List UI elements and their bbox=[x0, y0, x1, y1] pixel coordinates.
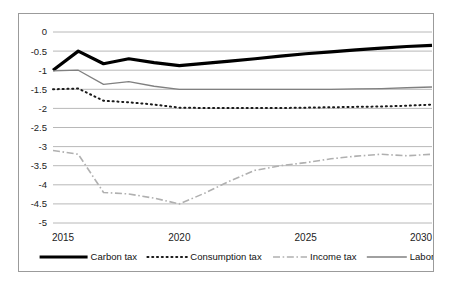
x-axis-tick-label: 2025 bbox=[295, 232, 318, 243]
y-axis-tick-label: -3 bbox=[39, 141, 47, 152]
x-axis-tick-label: 2015 bbox=[52, 232, 75, 243]
y-axis-tick-label: -2.5 bbox=[31, 122, 47, 133]
y-axis-tick-label: -1.5 bbox=[31, 84, 47, 95]
y-axis-tick-label: -3.5 bbox=[31, 160, 47, 171]
series-line-income-tax bbox=[53, 150, 432, 203]
x-axis-tick-label: 2030 bbox=[410, 232, 433, 243]
legend-label-consumption-tax[interactable]: Consumption tax bbox=[190, 251, 262, 262]
y-axis-tick-label: -4 bbox=[39, 179, 47, 190]
series-line-labor-tax bbox=[53, 70, 432, 89]
legend-label-carbon-tax[interactable]: Carbon tax bbox=[91, 251, 138, 262]
y-axis-tick-label: -4.5 bbox=[31, 198, 47, 209]
chart-plot-area: 0-0.5-1-1.5-2-2.5-3-3.5-4-4.5-5201520202… bbox=[19, 14, 433, 271]
series-line-consumption-tax bbox=[53, 89, 432, 108]
series-line-carbon-tax bbox=[53, 45, 432, 70]
y-axis-tick-label: -0.5 bbox=[31, 46, 47, 57]
y-axis-tick-label: -5 bbox=[39, 217, 47, 228]
y-axis-tick-label: -2 bbox=[39, 103, 47, 114]
x-axis-tick-label: 2020 bbox=[168, 232, 191, 243]
line-chart: 0-0.5-1-1.5-2-2.5-3-3.5-4-4.5-5201520202… bbox=[19, 14, 433, 271]
legend-label-labor-tax[interactable]: Labor tax bbox=[410, 251, 433, 262]
y-axis-tick-label: 0 bbox=[42, 26, 47, 37]
y-axis-tick-label: -1 bbox=[39, 65, 47, 76]
chart-frame: 0-0.5-1-1.5-2-2.5-3-3.5-4-4.5-5201520202… bbox=[18, 13, 434, 272]
legend-label-income-tax[interactable]: Income tax bbox=[310, 251, 357, 262]
